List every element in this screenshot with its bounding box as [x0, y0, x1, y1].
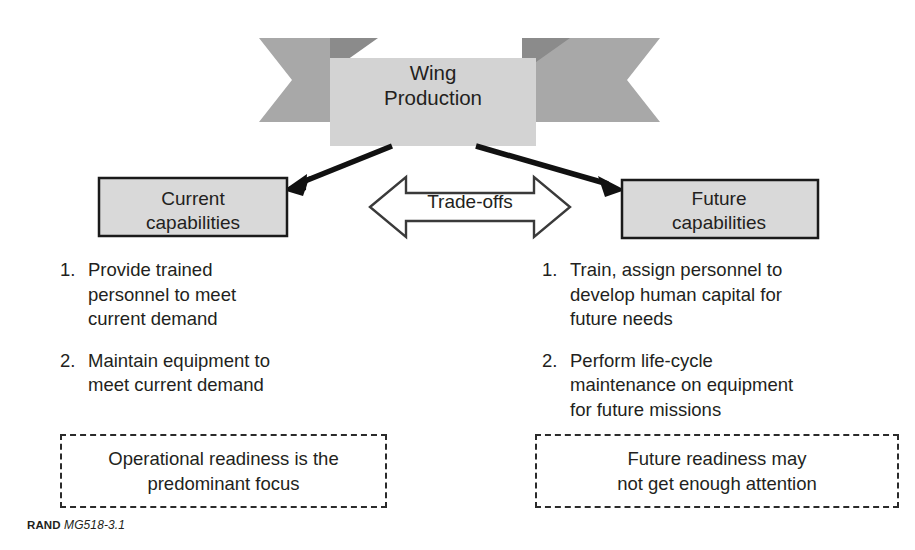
current-capabilities-list: 1. Provide trained personnel to meet cur… — [60, 258, 390, 415]
list-item-number: 2. — [60, 349, 88, 374]
callout-future-readiness: Future readiness may not get enough atte… — [535, 434, 899, 508]
banner-label: Wing Production — [330, 60, 536, 110]
figure-number-label: MG518-3.1 — [64, 518, 125, 532]
list-item: 1. Provide trained personnel to meet cur… — [60, 258, 390, 332]
list-item: 2. Perform life-cycle maintenance on equ… — [542, 349, 902, 423]
list-item-text: Perform life-cycle maintenance on equipm… — [570, 349, 902, 423]
list-item: 1. Train, assign personnel to develop hu… — [542, 258, 902, 332]
future-capabilities-label: Future capabilities — [625, 187, 813, 234]
list-item-text: Maintain equipment to meet current deman… — [88, 349, 390, 398]
figure-source-caption: RAND MG518-3.1 — [27, 518, 125, 532]
callout-text: Future readiness may not get enough atte… — [617, 446, 817, 496]
list-item-text: Provide trained personnel to meet curren… — [88, 258, 390, 332]
rand-brand-label: RAND — [27, 519, 61, 531]
list-item: 2. Maintain equipment to meet current de… — [60, 349, 390, 398]
list-item-text: Train, assign personnel to develop human… — [570, 258, 902, 332]
future-capabilities-list: 1. Train, assign personnel to develop hu… — [542, 258, 902, 439]
figure-canvas: Wing Production Current capabilities Fut… — [0, 0, 915, 550]
arrow-to-current — [283, 146, 392, 196]
list-item-number: 1. — [60, 258, 88, 283]
current-capabilities-label: Current capabilities — [103, 187, 283, 234]
callout-text: Operational readiness is the predominant… — [108, 446, 338, 496]
list-item-number: 2. — [542, 349, 570, 374]
callout-operational-readiness: Operational readiness is the predominant… — [60, 434, 387, 508]
list-item-number: 1. — [542, 258, 570, 283]
tradeoff-arrow-label: Trade-offs — [410, 190, 530, 213]
